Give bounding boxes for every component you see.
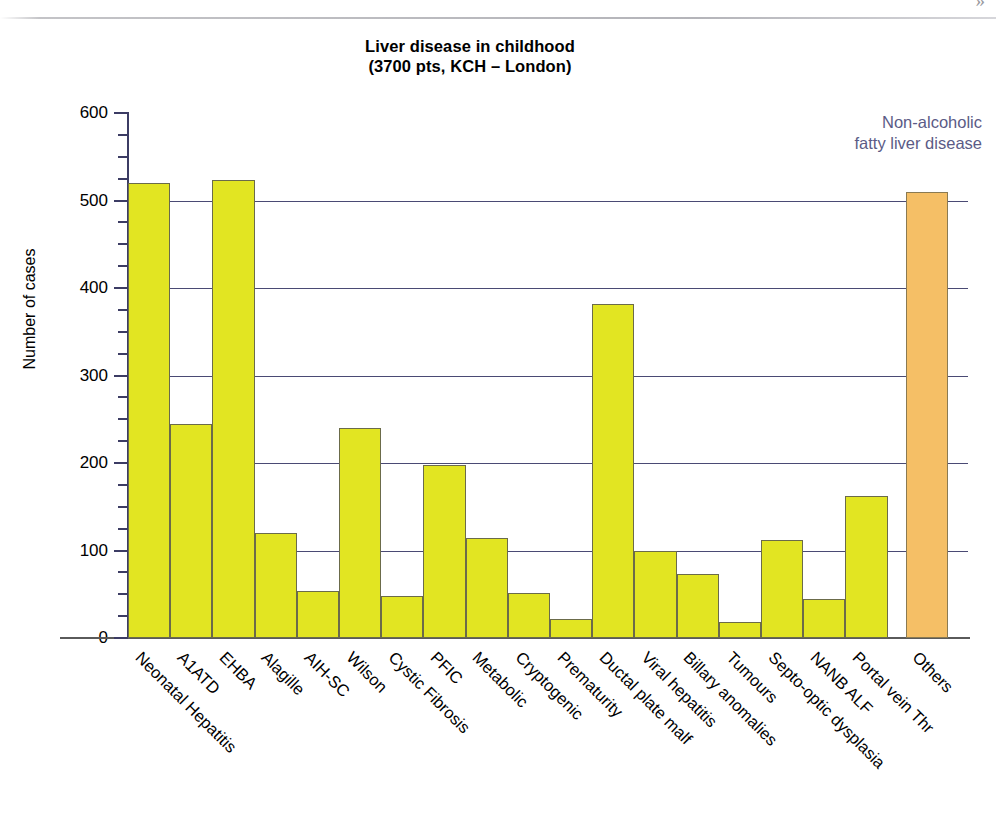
- plot-area: [128, 113, 968, 638]
- bar[interactable]: [170, 424, 212, 638]
- bar[interactable]: [297, 591, 339, 638]
- y-axis-major-tick: [114, 462, 128, 464]
- y-axis-minor-tick: [118, 593, 128, 595]
- y-axis-minor-tick: [118, 265, 128, 267]
- y-axis-major-tick: [114, 287, 128, 289]
- y-axis-minor-tick: [118, 506, 128, 508]
- y-axis-minor-tick: [118, 134, 128, 136]
- y-axis-tick-label: 600: [12, 104, 108, 121]
- x-axis-tick-label: Alagille: [259, 648, 309, 698]
- y-axis-minor-tick: [118, 615, 128, 617]
- bar[interactable]: [803, 599, 845, 638]
- bar[interactable]: [381, 596, 423, 638]
- y-axis-minor-tick: [118, 418, 128, 420]
- bar[interactable]: [906, 192, 948, 638]
- y-axis-tick-label: 400: [12, 279, 108, 296]
- y-axis-minor-tick: [118, 440, 128, 442]
- y-axis-tick-label: 200: [12, 454, 108, 471]
- y-axis-tick-label: 500: [12, 192, 108, 209]
- y-axis-minor-tick: [118, 243, 128, 245]
- bar[interactable]: [255, 533, 297, 638]
- y-axis-minor-tick: [118, 178, 128, 180]
- x-axis-tick-label: AIH-SC: [301, 648, 353, 700]
- annotation-line2: fatty liver disease: [772, 133, 982, 154]
- bar[interactable]: [508, 593, 550, 639]
- chart-figure: Liver disease in childhood (3700 pts, KC…: [0, 0, 996, 832]
- y-axis-tick-label: 300: [12, 367, 108, 384]
- y-axis-major-tick: [114, 550, 128, 552]
- y-axis-tick-labels: 0100200300400500600: [0, 0, 108, 832]
- bar[interactable]: [719, 622, 761, 638]
- bar[interactable]: [634, 551, 676, 639]
- annotation-line1: Non-alcoholic: [882, 113, 982, 131]
- bar[interactable]: [212, 180, 254, 639]
- y-axis-minor-tick: [118, 484, 128, 486]
- bar[interactable]: [677, 574, 719, 638]
- y-axis-major-tick: [114, 637, 128, 639]
- y-axis-minor-tick: [118, 221, 128, 223]
- y-axis-tick-label: 100: [12, 542, 108, 559]
- y-axis-minor-tick: [118, 571, 128, 573]
- y-axis-minor-tick: [118, 396, 128, 398]
- y-axis-minor-tick: [118, 309, 128, 311]
- y-axis-minor-tick: [118, 353, 128, 355]
- bar[interactable]: [592, 304, 634, 638]
- bar[interactable]: [761, 540, 803, 638]
- chart-title-line1: Liver disease in childhood: [365, 37, 575, 55]
- x-axis-tick-label: Others: [910, 648, 958, 696]
- bar[interactable]: [128, 183, 170, 638]
- chart-title: Liver disease in childhood (3700 pts, KC…: [0, 36, 940, 76]
- annotation-non-alcoholic-fatty-liver-disease: Non-alcoholic fatty liver disease: [772, 112, 982, 154]
- bar[interactable]: [466, 538, 508, 638]
- y-axis-minor-tick: [118, 156, 128, 158]
- bar[interactable]: [845, 496, 887, 638]
- y-axis-major-tick: [114, 375, 128, 377]
- x-axis-tick-label: PFIC: [428, 648, 467, 687]
- y-axis-minor-tick: [118, 528, 128, 530]
- bar[interactable]: [339, 428, 381, 638]
- x-axis-tick-label: EHBA: [217, 648, 262, 693]
- bar[interactable]: [423, 465, 465, 638]
- bar[interactable]: [550, 619, 592, 638]
- y-axis-minor-tick: [118, 331, 128, 333]
- y-axis-major-tick: [114, 200, 128, 202]
- y-axis-major-tick: [114, 112, 128, 114]
- chart-title-line2: (3700 pts, KCH – London): [0, 56, 940, 76]
